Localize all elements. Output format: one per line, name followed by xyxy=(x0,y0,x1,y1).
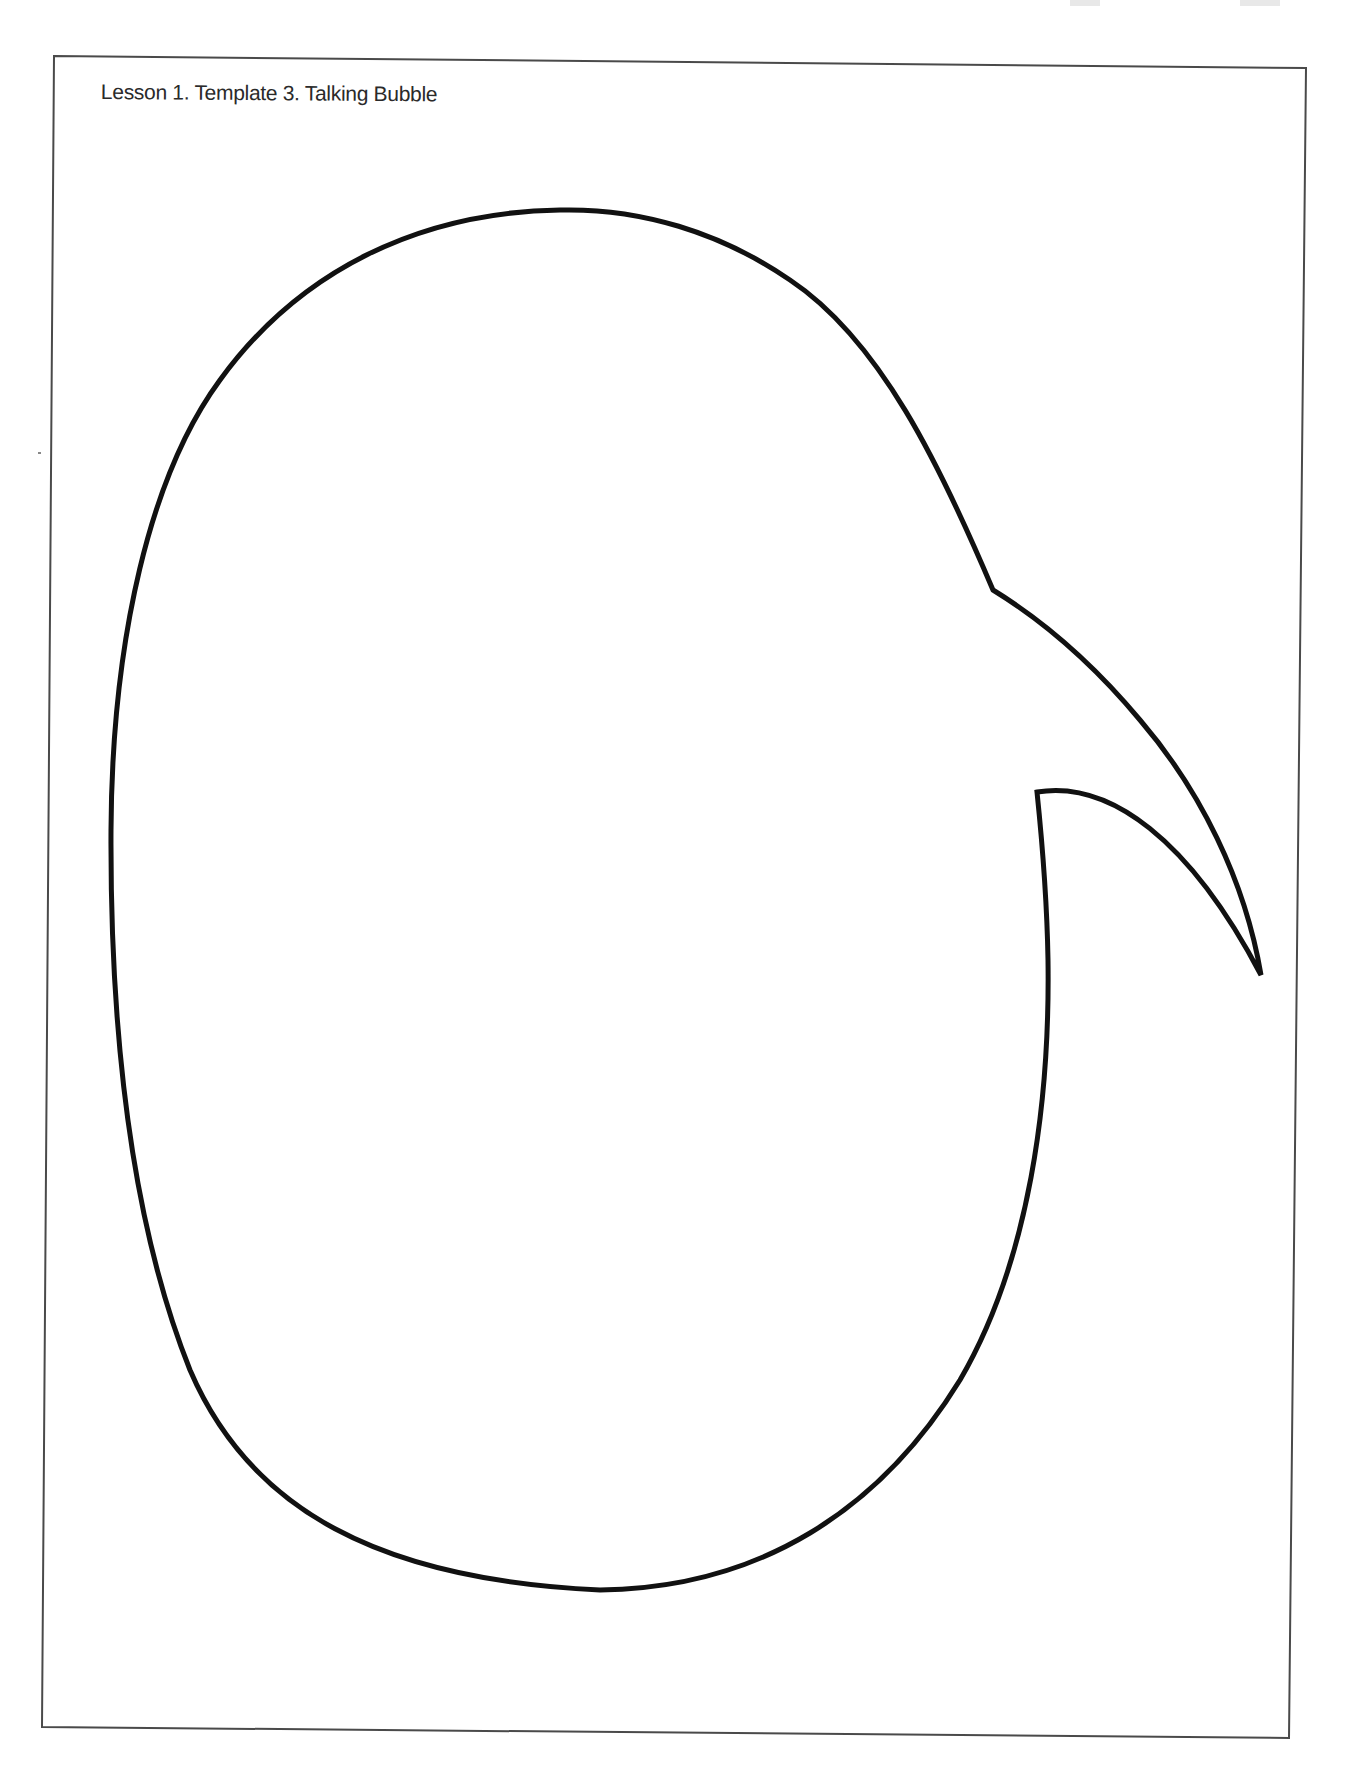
scan-artifact xyxy=(38,452,41,454)
page-graphics xyxy=(0,0,1354,1784)
template-title: Lesson 1. Template 3. Talking Bubble xyxy=(101,80,437,106)
talking-bubble-outline xyxy=(111,210,1261,1590)
cropped-header-remnant xyxy=(1240,0,1280,6)
cropped-header-remnant xyxy=(1070,0,1100,6)
